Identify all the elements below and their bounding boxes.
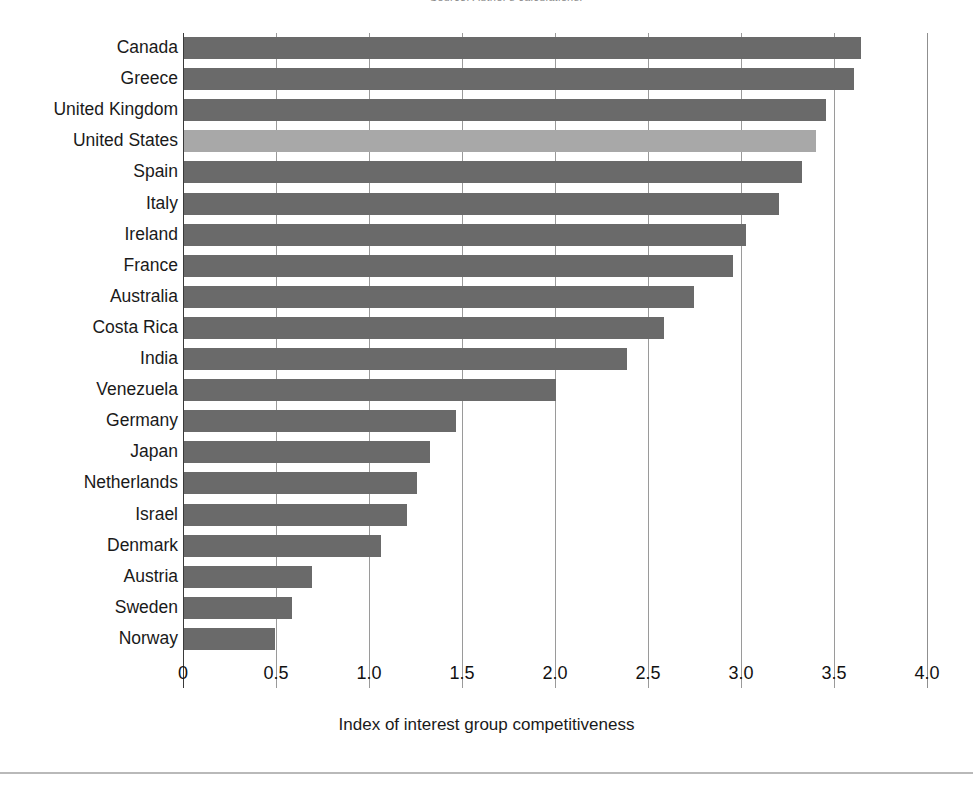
category-label: Japan bbox=[130, 440, 178, 462]
category-label: India bbox=[140, 347, 178, 369]
bar-france bbox=[184, 255, 733, 277]
bar-united-states bbox=[184, 130, 816, 152]
bar-israel bbox=[184, 504, 407, 526]
category-label: Costa Rica bbox=[92, 316, 178, 338]
bar-row: United Kingdom bbox=[0, 95, 973, 126]
bar-venezuela bbox=[184, 379, 556, 401]
x-tick-label: 0 bbox=[178, 663, 188, 684]
category-label: Norway bbox=[119, 627, 178, 649]
bar-row: Greece bbox=[0, 64, 973, 95]
category-label: Germany bbox=[106, 409, 178, 431]
category-label: Greece bbox=[121, 67, 178, 89]
bar-row: Costa Rica bbox=[0, 313, 973, 344]
x-tick-label: 2.0 bbox=[542, 663, 567, 684]
bar-row: Germany bbox=[0, 406, 973, 437]
category-label: United States bbox=[73, 129, 178, 151]
category-label: Venezuela bbox=[96, 378, 178, 400]
bar-greece bbox=[184, 68, 854, 90]
bar-row: Sweden bbox=[0, 593, 973, 624]
bar-ireland bbox=[184, 224, 746, 246]
chart-page: Source: Author's calculations. CanadaGre… bbox=[0, 0, 973, 785]
category-label: Sweden bbox=[115, 596, 178, 618]
category-label: Denmark bbox=[107, 534, 178, 556]
x-tick-label: 2.5 bbox=[635, 663, 660, 684]
category-label: Ireland bbox=[124, 223, 178, 245]
bar-row: Ireland bbox=[0, 220, 973, 251]
bar-sweden bbox=[184, 597, 292, 619]
bar-germany bbox=[184, 410, 456, 432]
category-label: Netherlands bbox=[84, 471, 178, 493]
x-tick-label: 1.5 bbox=[449, 663, 474, 684]
category-label: Canada bbox=[117, 36, 178, 58]
x-tick-label: 1.0 bbox=[356, 663, 381, 684]
bar-row: France bbox=[0, 251, 973, 282]
bar-row: Denmark bbox=[0, 531, 973, 562]
category-label: Israel bbox=[135, 503, 178, 525]
bar-denmark bbox=[184, 535, 381, 557]
bar-row: India bbox=[0, 344, 973, 375]
bar-row: Venezuela bbox=[0, 375, 973, 406]
bar-japan bbox=[184, 441, 430, 463]
x-tick-label: 3.5 bbox=[821, 663, 846, 684]
bar-australia bbox=[184, 286, 694, 308]
bar-row: United States bbox=[0, 126, 973, 157]
x-tick-label: 0.5 bbox=[263, 663, 288, 684]
bar-costa-rica bbox=[184, 317, 664, 339]
bar-united-kingdom bbox=[184, 99, 826, 121]
bar-india bbox=[184, 348, 627, 370]
bar-row: Italy bbox=[0, 189, 973, 220]
bar-row: Israel bbox=[0, 500, 973, 531]
bar-row: Austria bbox=[0, 562, 973, 593]
bar-row: Australia bbox=[0, 282, 973, 313]
bar-austria bbox=[184, 566, 312, 588]
category-label: Austria bbox=[124, 565, 178, 587]
x-tick-label: 3.0 bbox=[728, 663, 753, 684]
x-axis-title: Index of interest group competitiveness bbox=[0, 715, 973, 735]
bar-norway bbox=[184, 628, 275, 650]
bar-row: Netherlands bbox=[0, 468, 973, 499]
x-tick-label: 4.0 bbox=[914, 663, 939, 684]
category-label: United Kingdom bbox=[53, 98, 178, 120]
bar-netherlands bbox=[184, 472, 417, 494]
horizontal-bar-chart: CanadaGreeceUnited KingdomUnited StatesS… bbox=[0, 0, 973, 785]
bar-row: Spain bbox=[0, 157, 973, 188]
bar-row: Canada bbox=[0, 33, 973, 64]
bar-italy bbox=[184, 193, 779, 215]
category-label: Italy bbox=[146, 192, 178, 214]
category-label: Spain bbox=[133, 160, 178, 182]
bar-spain bbox=[184, 161, 802, 183]
bar-row: Japan bbox=[0, 437, 973, 468]
category-label: Australia bbox=[110, 285, 178, 307]
footer-divider bbox=[0, 772, 973, 774]
bar-row: Norway bbox=[0, 624, 973, 655]
category-label: France bbox=[124, 254, 178, 276]
bar-canada bbox=[184, 37, 861, 59]
